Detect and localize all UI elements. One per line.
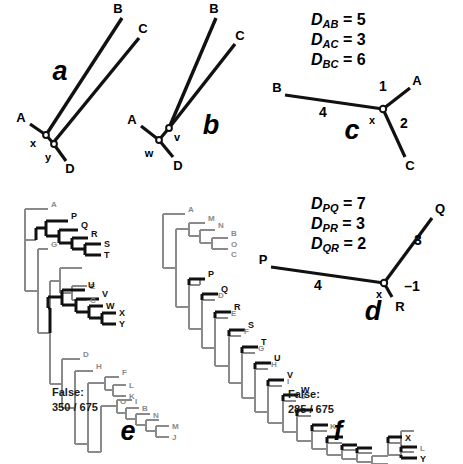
panel-a-node-y [51,141,57,147]
panel-e-letter: e [120,416,135,446]
panel-e-taxon-I: I [135,397,137,406]
panel-c-node-x [380,106,386,112]
panel-d-node-x [381,280,387,286]
panel-f-taxon-U: U [274,353,281,363]
panel-e-false-label: False: [52,386,84,398]
panel-b-node-label-v: v [174,131,181,143]
panel-f-taxon-X: X [405,433,411,443]
panel-e-taxon-U: U [88,280,95,290]
panel-a-node-label-x: x [30,137,37,149]
panel-b-node-v [166,125,172,131]
panel-e-taxon-L: L [129,381,134,390]
panel-e-taxon-T: T [104,250,110,260]
panel-e-taxon-F: F [122,368,127,377]
panel-c-node-label-x: x [369,114,376,126]
panel-c-distance-bc: DBC = 6 [311,51,366,70]
panel-a-node-x [43,132,49,138]
panel-f-false-value: 285 / 675 [288,403,334,415]
panel-c-tip-B: B [272,80,281,95]
panel-e-taxon-R: R [91,229,98,239]
panel-d-distance-qr: DQR = 2 [311,235,366,254]
panel-e-taxon-W: W [106,301,115,311]
panel-e-taxon-B: B [142,404,148,413]
panel-f-taxon-Y: Y [420,454,426,464]
panel-c-branchlen-A: 1 [379,78,387,94]
panel-e-taxon-Q: Q [81,220,88,230]
panel-f-false-label: False: [288,388,320,400]
panel-b-tip-C: C [235,28,245,43]
panel-e-taxon-C: C [90,296,96,305]
panel-f-taxon-B: B [231,229,237,238]
panel-a-tip-C: C [138,21,148,36]
panel-e-taxon-Y: Y [119,319,125,329]
panel-d-distance-pq: DPQ = 7 [311,195,366,214]
panel-f-taxon-C: C [231,250,237,259]
panel-f-taxon-R: R [234,302,241,312]
panel-d-branchlen-Q: 3 [414,232,422,248]
panel-f-taxon-N: N [218,221,224,230]
panel-b-node-w [156,137,162,143]
panel-e-taxon-V: V [102,289,108,299]
panel-f-taxon-O: O [231,240,237,249]
panel-c-tip-A: A [412,73,422,88]
panel-a-letter: a [52,56,67,86]
panel-b-letter: b [203,110,220,140]
panel-d-tip-R: R [395,299,405,314]
panel-d-tip-P: P [259,252,268,267]
panel-b-node-label-w: w [144,147,154,159]
panel-b-tip-D: D [173,158,182,173]
panel-f-taxon-Q: Q [221,284,228,294]
panel-c-branchlen-C: 2 [400,115,408,131]
panel-c-letter: c [344,115,359,145]
panel-e-false-value: 350 / 675 [52,401,98,413]
panel-e-taxon-J: J [172,433,176,442]
panel-d-tip-Q: Q [435,201,445,216]
panel-c-distance-ab: DAB = 5 [311,11,366,30]
panel-f-taxon-S: S [248,320,254,330]
panel-e-taxon-H: H [96,362,102,371]
panel-e-taxon-O: O [120,397,126,406]
panel-e-taxon-P: P [71,211,77,221]
panel-d-branchlen-P: 4 [314,277,322,293]
panel-f-taxon-P: P [208,269,214,279]
panel-f-taxon-T: T [261,337,267,347]
panel-e-taxon-G: G [51,240,57,249]
panel-e-taxon-A: A [51,200,57,209]
panel-e-taxon-M: M [172,422,179,431]
panel-e-taxon-D: D [83,350,89,359]
panel-f-taxon-V: V [287,370,293,380]
panel-a-tip-A: A [16,110,26,125]
panel-d-letter: d [365,296,382,326]
panel-d-distance-pr: DPR = 3 [311,215,365,234]
panel-a-node-label-y: y [45,151,52,163]
panel-e-taxon-X: X [119,308,125,318]
panel-b-tip-A: A [127,112,137,127]
panel-d-branchlen-R: –1 [404,278,420,294]
panel-a-tip-B: B [113,1,122,16]
panel-c-distance-ac: DAC = 3 [311,31,366,50]
panel-f-taxon-A: A [188,205,194,214]
panel-f-taxon-L: L [420,444,425,453]
panel-e-taxon-N: N [153,411,159,420]
panel-a-tip-D: D [65,161,74,176]
panel-b-tip-B: B [209,1,218,16]
figure-canvas: B C A D x y a B C A D v w b DAB = 5 DAC … [0,0,463,464]
panel-f-taxon-M: M [208,214,215,223]
panel-c-tip-C: C [405,158,415,173]
panel-e-taxon-S: S [104,239,110,249]
panel-c-branchlen-B: 4 [319,104,327,120]
